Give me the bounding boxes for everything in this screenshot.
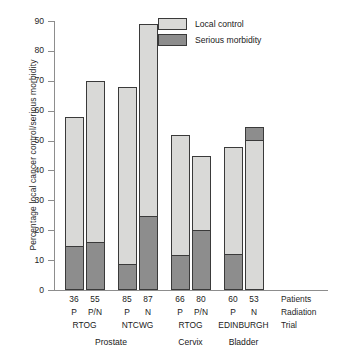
axis-cell-patients: 53 (249, 294, 258, 304)
axis-row-label-radiation: Radiation (281, 307, 316, 317)
y-tick-label: 30 (2, 196, 44, 205)
chart-container: Percentage local cancer control/serious … (0, 0, 338, 358)
axis-cell-trial: RTOG (179, 320, 203, 330)
axis-cell-trial: RTOG (73, 320, 97, 330)
axis-cell-patients: 87 (143, 294, 152, 304)
y-tick-label: 0 (2, 286, 44, 295)
legend-swatch-serious-morbidity (158, 34, 187, 46)
bar-segment-serious-morbidity (119, 264, 136, 289)
bar-rtog-P-prostate (65, 117, 84, 290)
bar-rtog-P-cervix (171, 135, 190, 290)
axis-cell-patients: 55 (90, 294, 99, 304)
y-tick-label: 70 (2, 76, 44, 85)
y-tick-label: 90 (2, 17, 44, 26)
axis-cell-patients: 80 (196, 294, 205, 304)
x-axis-line (54, 290, 328, 291)
bar-segment-serious-morbidity (172, 255, 189, 289)
axis-cell-site: Cervix (178, 337, 202, 347)
legend-label-local-control: Local control (195, 19, 244, 29)
bar-ntcwg-P-prostate (118, 87, 137, 290)
axis-cell-radiation: P/N (194, 307, 208, 317)
axis-row-label-patients: Patients (281, 294, 311, 304)
chart-legend: Local control Serious morbidity (158, 18, 261, 50)
axis-cell-radiation: P (124, 307, 130, 317)
legend-label-serious-morbidity: Serious morbidity (195, 35, 261, 45)
bar-segment-serious-morbidity (87, 242, 104, 289)
bar-segment-serious-morbidity (66, 246, 83, 289)
y-tick-label: 60 (2, 106, 44, 115)
bar-rtog-PN-cervix (192, 156, 211, 291)
axis-cell-trial: EDINBURGH (218, 320, 268, 330)
axis-cell-radiation: N (251, 307, 257, 317)
bar-ntcwg-N-prostate (139, 24, 158, 290)
axis-cell-patients: 85 (122, 294, 131, 304)
bar-edinburgh-P-bladder (224, 147, 243, 290)
plot-area (54, 21, 328, 290)
legend-swatch-local-control (158, 18, 187, 30)
y-tick-label: 80 (2, 46, 44, 55)
axis-cell-patients: 36 (69, 294, 78, 304)
axis-cell-radiation: P (230, 307, 236, 317)
axis-row-label-trial: Trial (281, 320, 297, 330)
legend-item-serious-morbidity: Serious morbidity (158, 34, 261, 46)
axis-cell-patients: 66 (175, 294, 184, 304)
axis-cell-radiation: P (177, 307, 183, 317)
bar-segment-serious-morbidity (246, 128, 263, 141)
bar-segment-serious-morbidity (193, 230, 210, 289)
y-tick-label: 50 (2, 136, 44, 145)
axis-cell-patients: 60 (228, 294, 237, 304)
y-tick-label: 40 (2, 166, 44, 175)
legend-item-local-control: Local control (158, 18, 261, 30)
bar-segment-serious-morbidity (140, 216, 157, 289)
axis-cell-radiation: P/N (88, 307, 102, 317)
bar-segment-serious-morbidity (225, 254, 242, 289)
bar-edinburgh-N-bladder (245, 127, 264, 290)
y-axis-title: Percentage local cancer control/serious … (28, 30, 38, 280)
y-tick-mark (48, 290, 54, 291)
y-tick-label: 20 (2, 226, 44, 235)
axis-cell-site: Prostate (95, 337, 127, 347)
axis-cell-trial: NTCWG (122, 320, 154, 330)
axis-cell-radiation: P (71, 307, 77, 317)
axis-cell-radiation: N (145, 307, 151, 317)
y-tick-label: 10 (2, 256, 44, 265)
bar-rtog-PN-prostate (86, 81, 105, 290)
axis-cell-site: Bladder (229, 337, 259, 347)
